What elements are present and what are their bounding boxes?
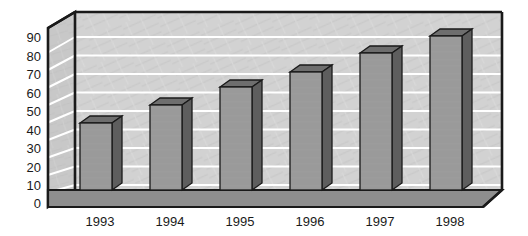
- y-tick-label: 90: [27, 30, 41, 45]
- x-tick-label: 1998: [436, 214, 465, 229]
- bar-1996: [290, 65, 332, 190]
- x-tick-label: 1993: [86, 214, 115, 229]
- y-tick-label: 70: [27, 67, 41, 82]
- y-tick-label: 10: [27, 178, 41, 193]
- bar-chart: 90 80 70 60 50 40 30 20 10 0 1993 1994 1…: [0, 0, 528, 236]
- x-tick-label: 1995: [226, 214, 255, 229]
- plot-floor: [48, 190, 502, 207]
- y-tick-label: 40: [27, 123, 41, 138]
- x-tick-label: 1997: [366, 214, 395, 229]
- bar-1994: [150, 98, 192, 190]
- y-tick-label: 80: [27, 49, 41, 64]
- plot-left-wall: [48, 12, 75, 207]
- x-tick-label: 1996: [296, 214, 325, 229]
- bar-1997: [360, 46, 402, 190]
- y-tick-label: 30: [27, 141, 41, 156]
- bar-1995: [220, 80, 262, 190]
- chart-canvas: 90 80 70 60 50 40 30 20 10 0 1993 1994 1…: [0, 0, 528, 236]
- y-tick-label: 60: [27, 86, 41, 101]
- bar-1998: [430, 29, 472, 190]
- y-tick-label: 50: [27, 104, 41, 119]
- y-tick-label: 20: [27, 160, 41, 175]
- bar-1993: [80, 116, 122, 190]
- y-tick-label: 0: [34, 196, 41, 211]
- x-tick-label: 1994: [156, 214, 185, 229]
